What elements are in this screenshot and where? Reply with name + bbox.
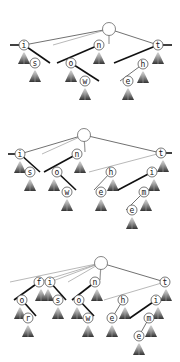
tree-edge	[118, 172, 152, 190]
tree-node-t: t	[153, 40, 163, 50]
node-label: w	[86, 314, 91, 323]
node-label: i	[154, 296, 159, 305]
tree-node-i2: i	[151, 295, 161, 305]
tree-node-w: w	[62, 187, 72, 197]
node-label: e	[110, 314, 115, 323]
tree-node-s: s	[30, 58, 40, 68]
tree-edge	[84, 135, 161, 153]
tree-panel-2: isnowtheime	[8, 129, 172, 230]
node-label: s	[28, 168, 33, 177]
tree-panels: isnowtheisnowtheimefiorsnowtheime	[8, 23, 172, 356]
tree-node-n: n	[94, 40, 104, 50]
node-label: i	[150, 168, 155, 177]
node-label: t	[163, 278, 168, 287]
tree-node-t: t	[160, 277, 170, 287]
tree-node-e: e	[123, 76, 133, 86]
tree-node-o: o	[52, 167, 62, 177]
tree-node-t: t	[156, 148, 166, 158]
node-label: f	[37, 278, 42, 287]
tree-node-e: e	[96, 187, 106, 197]
tree-node-i: i	[15, 149, 25, 159]
tree-node-n: n	[90, 277, 100, 287]
node-label: h	[141, 60, 146, 69]
tree-node-h: h	[118, 295, 128, 305]
tree-edge	[57, 45, 99, 63]
node-label: m	[142, 188, 147, 197]
node-label: w	[65, 188, 70, 197]
tree-node-s: s	[53, 295, 63, 305]
tree-node-o2: o	[74, 295, 84, 305]
tree-node-e: e	[107, 313, 117, 323]
tree-node-i: i	[19, 40, 29, 50]
tree-node-e2: e	[134, 331, 144, 341]
node-label: n	[75, 150, 80, 159]
node-label: t	[156, 41, 161, 50]
node-label: o	[20, 296, 25, 305]
node-label: n	[93, 278, 98, 287]
node-label: i	[48, 278, 53, 287]
node-label: h	[121, 296, 126, 305]
tree-node-w: w	[83, 313, 93, 323]
node-label: h	[109, 168, 114, 177]
root-node	[78, 129, 91, 142]
ternary-search-tree-diagram: isnowtheisnowtheimefiorsnowtheime	[0, 0, 180, 362]
tree-edge	[10, 263, 101, 282]
node-label: s	[33, 59, 38, 68]
root-node	[103, 23, 116, 36]
tree-panel-3: fiorsnowtheime	[10, 257, 172, 356]
tree-node-r: r	[23, 313, 33, 323]
tree-node-o: o	[17, 295, 27, 305]
tree-node-m: m	[139, 187, 149, 197]
tree-panel-1: isnowthe	[10, 23, 172, 101]
node-label: s	[56, 296, 61, 305]
node-label: o	[77, 296, 82, 305]
tree-node-n: n	[72, 149, 82, 159]
node-label: w	[83, 77, 88, 86]
node-label: e	[137, 332, 142, 341]
node-label: r	[26, 314, 31, 323]
tree-node-s: s	[25, 167, 35, 177]
node-label: e	[130, 206, 135, 215]
tree-node-w: w	[80, 76, 90, 86]
node-label: e	[99, 188, 104, 197]
tree-node-o: o	[66, 58, 76, 68]
tree-node-f: f	[34, 277, 44, 287]
node-label: i	[18, 150, 23, 159]
node-label: o	[69, 59, 74, 68]
tree-node-i2: i	[147, 167, 157, 177]
tree-node-h: h	[138, 59, 148, 69]
node-label: o	[55, 168, 60, 177]
tree-node-i: i	[45, 277, 55, 287]
tree-edge	[114, 45, 158, 63]
node-label: m	[147, 314, 152, 323]
tree-node-e2: e	[127, 205, 137, 215]
node-label: t	[159, 149, 164, 158]
tree-node-h: h	[106, 167, 116, 177]
tree-node-m: m	[144, 313, 154, 323]
node-label: n	[97, 41, 102, 50]
root-node	[95, 257, 108, 270]
node-label: e	[126, 77, 131, 86]
node-label: i	[22, 41, 27, 50]
tree-edge	[101, 263, 165, 282]
tree-edge	[109, 29, 158, 45]
